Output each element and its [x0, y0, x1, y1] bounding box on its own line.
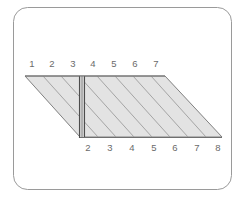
- top-tick-label: 7: [153, 58, 158, 69]
- bottom-tick-label: 5: [151, 142, 156, 153]
- top-tick-label: 2: [49, 58, 54, 69]
- bottom-tick-label: 6: [172, 142, 177, 153]
- bottom-tick-label: 2: [85, 142, 90, 153]
- top-tick-label: 6: [132, 58, 137, 69]
- parallelogram-diagram: 1 2 3 4 5 6 7 2 3 4 5 6 7 8: [0, 0, 247, 199]
- bottom-tick-label: 7: [194, 142, 199, 153]
- top-tick-label: 1: [29, 58, 34, 69]
- diagram-canvas: 1 2 3 4 5 6 7 2 3 4 5 6 7 8: [0, 0, 247, 199]
- top-tick-label: 4: [90, 58, 95, 69]
- top-tick-label: 3: [70, 58, 75, 69]
- bottom-tick-label: 4: [129, 142, 134, 153]
- bottom-tick-label: 8: [215, 142, 220, 153]
- vertical-divider-bar: [80, 76, 85, 138]
- bottom-tick-label: 3: [107, 142, 112, 153]
- top-tick-label: 5: [111, 58, 116, 69]
